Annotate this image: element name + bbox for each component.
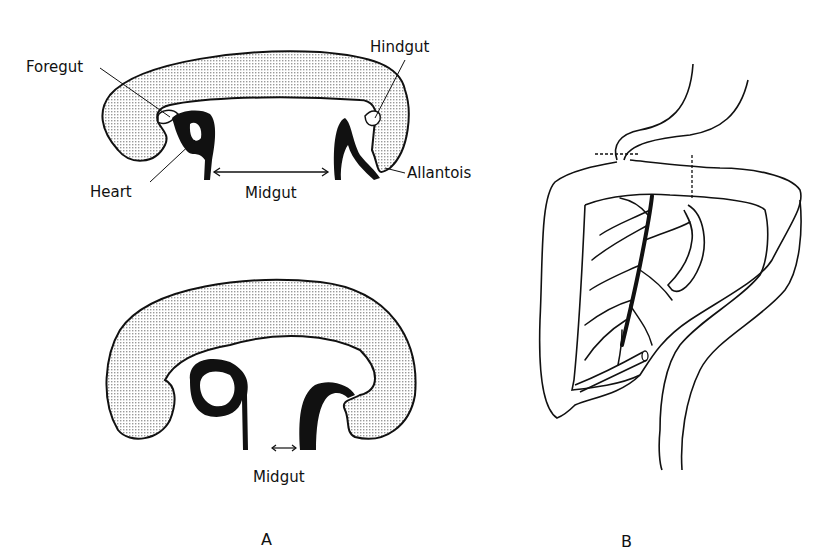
esophagus-stomach-left [616, 64, 693, 160]
panel-label-b: B [621, 532, 632, 551]
esophagus-stomach-right [624, 80, 748, 160]
midgut-loop [668, 205, 704, 291]
top-embryo [100, 51, 409, 182]
superior-mesenteric-artery [585, 196, 690, 365]
label-hindgut: Hindgut [370, 40, 429, 55]
inner-bowel-wall [585, 194, 768, 470]
bottom-embryo-body [106, 280, 415, 439]
label-midgut-top: Midgut [245, 186, 297, 201]
heart-tube [172, 111, 215, 180]
label-heart: Heart [90, 185, 132, 200]
intestine-rotation [540, 64, 801, 470]
bottom-heart-loop [190, 359, 248, 450]
label-midgut-bottom: Midgut [253, 470, 305, 485]
bottom-embryo [106, 280, 415, 451]
panel-label-a: A [261, 530, 272, 549]
top-embryo-body [102, 51, 408, 172]
embryo-gut-diagram [0, 0, 828, 551]
cecum-opening [642, 351, 648, 361]
label-allantois: Allantois [407, 166, 471, 181]
allantois-leader [385, 168, 405, 173]
label-foregut: Foregut [26, 60, 83, 75]
mesentery-left-border [572, 205, 640, 390]
